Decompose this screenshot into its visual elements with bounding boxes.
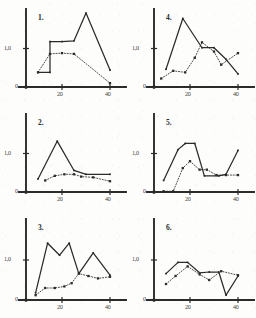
y-zero-label: 0 bbox=[15, 83, 18, 89]
panel-title: 6. bbox=[166, 223, 172, 232]
x-tick-label-40: 40 bbox=[105, 304, 110, 310]
small-multiples-grid: 1. 1,0 0 20 40 4. 1,0 0 20 40 2. 1,0 0 2… bbox=[0, 0, 256, 318]
panel-title: 3. bbox=[38, 223, 44, 232]
x-tick-label-40: 40 bbox=[233, 91, 238, 97]
chart-svg bbox=[0, 0, 128, 105]
y-tick-label: 1,0 bbox=[4, 150, 11, 156]
panel-title: 2. bbox=[38, 118, 44, 127]
chart-panel: 5. 1,0 0 20 40 bbox=[128, 105, 256, 210]
y-tick-label: 1,0 bbox=[4, 256, 11, 262]
x-tick-label-20: 20 bbox=[185, 91, 190, 97]
x-tick-label-40: 40 bbox=[105, 91, 110, 97]
y-zero-label: 0 bbox=[143, 188, 146, 194]
y-zero-label: 0 bbox=[15, 296, 18, 302]
chart-svg bbox=[0, 105, 128, 210]
chart-svg bbox=[128, 105, 256, 210]
chart-svg bbox=[0, 210, 128, 318]
chart-panel: 2. 1,0 0 20 40 bbox=[0, 105, 128, 210]
y-tick-label: 1,0 bbox=[4, 45, 11, 51]
chart-panel: 1. 1,0 0 20 40 bbox=[0, 0, 128, 105]
chart-svg bbox=[128, 0, 256, 105]
x-tick-label-20: 20 bbox=[57, 304, 62, 310]
x-tick-label-20: 20 bbox=[185, 304, 190, 310]
y-tick-label: 1,0 bbox=[132, 45, 139, 51]
x-tick-label-20: 20 bbox=[57, 196, 62, 202]
figure-panel-grid: 1. 1,0 0 20 40 4. 1,0 0 20 40 2. 1,0 0 2… bbox=[0, 0, 256, 318]
x-tick-label-40: 40 bbox=[233, 196, 238, 202]
chart-panel: 6. 1,0 0 20 40 bbox=[128, 210, 256, 318]
panel-title: 5. bbox=[166, 118, 172, 127]
panel-title: 4. bbox=[166, 13, 172, 22]
chart-panel: 3. 1,0 0 20 40 bbox=[0, 210, 128, 318]
chart-svg bbox=[128, 210, 256, 318]
x-tick-label-40: 40 bbox=[233, 304, 238, 310]
x-tick-label-20: 20 bbox=[57, 91, 62, 97]
chart-panel: 4. 1,0 0 20 40 bbox=[128, 0, 256, 105]
y-tick-label: 1,0 bbox=[132, 150, 139, 156]
y-tick-label: 1,0 bbox=[132, 256, 139, 262]
y-zero-label: 0 bbox=[143, 83, 146, 89]
y-zero-label: 0 bbox=[15, 188, 18, 194]
panel-title: 1. bbox=[38, 13, 44, 22]
x-tick-label-40: 40 bbox=[105, 196, 110, 202]
x-tick-label-20: 20 bbox=[185, 196, 190, 202]
y-zero-label: 0 bbox=[143, 296, 146, 302]
